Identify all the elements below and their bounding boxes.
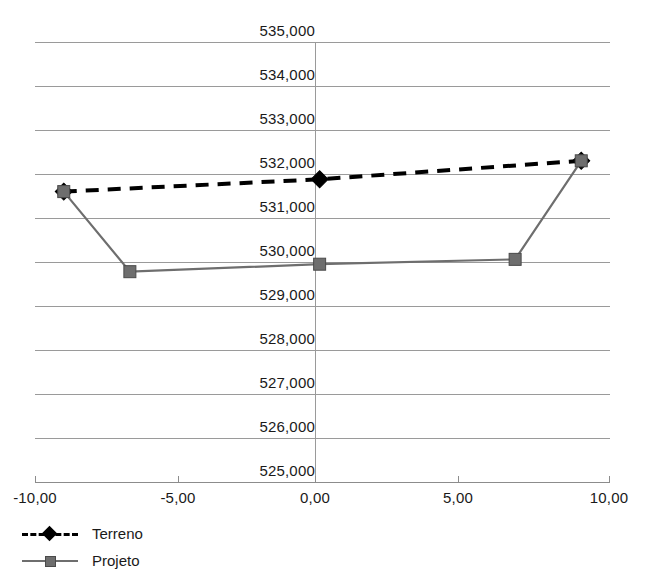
y-axis-label: 535,000 <box>220 22 315 39</box>
y-axis-label: 530,000 <box>220 242 315 259</box>
gridline <box>35 86 610 87</box>
gridline <box>35 306 610 307</box>
x-axis-tick <box>315 476 316 483</box>
x-axis-tick <box>458 476 459 483</box>
legend-key-projeto <box>22 551 78 571</box>
x-axis-label: 10,00 <box>573 489 645 507</box>
y-axis-label: 534,000 <box>220 66 315 83</box>
square-marker-icon <box>45 556 56 567</box>
y-axis-label: 526,000 <box>220 418 315 435</box>
y-axis-label: 528,000 <box>220 330 315 347</box>
gridline <box>35 218 610 219</box>
x-axis-label: 5,00 <box>424 489 492 507</box>
gridline <box>35 438 610 439</box>
line-chart: 535,000 534,000 533,000 532,000 531,000 … <box>0 0 648 584</box>
y-axis-label: 527,000 <box>220 374 315 391</box>
chart-legend: Terreno Projeto <box>22 520 322 574</box>
y-axis-label: 532,000 <box>220 154 315 171</box>
gridline <box>35 394 610 395</box>
diamond-marker-icon <box>42 525 58 541</box>
x-axis-tick <box>35 476 36 483</box>
y-axis-label: 533,000 <box>220 110 315 127</box>
legend-label: Projeto <box>92 552 140 570</box>
legend-key-terreno <box>22 524 78 544</box>
x-axis-tick <box>178 476 179 483</box>
plot-area <box>35 42 610 482</box>
legend-item-projeto[interactable]: Projeto <box>22 547 322 574</box>
x-axis-tick <box>609 476 610 483</box>
x-axis-label: 0,00 <box>281 489 349 507</box>
x-axis-label: -5,00 <box>140 489 216 507</box>
y-axis-line <box>315 42 316 482</box>
y-axis-label: 525,000 <box>220 462 315 479</box>
gridline <box>35 130 610 131</box>
gridline <box>35 262 610 263</box>
gridline <box>35 174 610 175</box>
x-axis-line <box>35 482 610 483</box>
y-axis-label: 531,000 <box>220 198 315 215</box>
gridline <box>35 350 610 351</box>
legend-item-terreno[interactable]: Terreno <box>22 520 322 547</box>
y-axis-label: 529,000 <box>220 286 315 303</box>
legend-label: Terreno <box>92 525 143 543</box>
gridline <box>35 42 610 43</box>
x-axis-label: -10,00 <box>0 489 75 507</box>
